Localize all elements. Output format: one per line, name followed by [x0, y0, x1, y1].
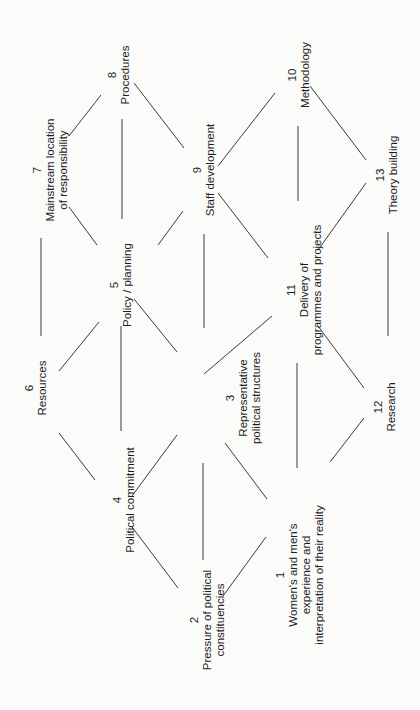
node-label: Delivery of programmes and projects — [298, 225, 324, 355]
edge-9-10 — [218, 93, 275, 166]
node-label: Pressure of political constituencies — [201, 570, 227, 670]
edge-7-5 — [69, 207, 97, 245]
node-label-line: Research — [385, 382, 398, 431]
edge-5-3 — [134, 299, 177, 352]
node-label-line: experience and — [300, 505, 313, 644]
node-label: Research — [385, 382, 398, 431]
edge-3-1 — [225, 443, 267, 499]
edge-3-4 — [132, 435, 177, 496]
edge-11-12 — [318, 326, 364, 388]
edge-13-11 — [318, 183, 366, 250]
edge-6-4 — [59, 433, 95, 480]
node-number: 7 — [31, 119, 44, 222]
edge-9-5 — [158, 211, 183, 245]
node-label-line: Political commitment — [124, 447, 137, 552]
node-number: 3 — [224, 352, 237, 444]
node-label-line: Theory building — [387, 136, 400, 215]
node-label-line: programmes and projects — [311, 225, 324, 355]
node-label-line: Methodology — [299, 42, 312, 108]
node-label-line: Pressure of political — [201, 570, 214, 670]
edge-7-8 — [69, 95, 101, 136]
node-label: Policy / planning — [121, 243, 134, 327]
node-number: 11 — [285, 225, 298, 355]
node-label-line: Representative — [237, 352, 250, 444]
edge-2-1 — [223, 537, 266, 596]
node-label-line: Policy / planning — [121, 243, 134, 327]
node-number: 9 — [191, 124, 204, 217]
edge-10-13 — [310, 86, 366, 160]
edge-4-2 — [132, 527, 178, 588]
node-label: Staff development — [204, 124, 217, 217]
node-number: 8 — [106, 46, 119, 105]
node-label-line: interpretation of their reality — [313, 505, 326, 644]
node-number: 10 — [286, 42, 299, 108]
node-label-line: Delivery of — [298, 225, 311, 355]
edge-6-5 — [59, 322, 99, 371]
node-number: 5 — [108, 243, 121, 327]
edge-9-11 — [218, 193, 268, 258]
node-label: Methodology — [299, 42, 312, 108]
node-label-line: Resources — [36, 361, 49, 416]
node-label: Representative political structures — [237, 352, 263, 444]
node-label-line: political structures — [250, 352, 263, 444]
node-label: Theory building — [387, 136, 400, 215]
node-number: 2 — [188, 570, 201, 670]
edge-8-9 — [134, 83, 184, 148]
node-number: 4 — [111, 447, 124, 552]
node-label: Political commitment — [124, 447, 137, 552]
node-label: Mainstream location of responsibility — [44, 119, 70, 222]
node-number: 13 — [374, 136, 387, 215]
node-number: 12 — [372, 382, 385, 431]
institutionalisation-web-diagram: 1 Women's and men's experience and inter… — [0, 0, 420, 710]
node-label-line: Procedures — [119, 46, 132, 105]
node-label: Women's and men's experience and interpr… — [287, 505, 326, 644]
node-label: Resources — [36, 361, 49, 416]
node-label-line: Mainstream location — [44, 119, 57, 222]
node-label-line: of responsibility — [57, 119, 70, 222]
node-label-line: constituencies — [214, 570, 227, 670]
node-label-line: Women's and men's — [287, 505, 300, 644]
node-label-line: Staff development — [204, 124, 217, 217]
edge-12-1 — [330, 418, 364, 462]
node-number: 1 — [274, 505, 287, 644]
node-number: 6 — [23, 361, 36, 416]
node-label: Procedures — [119, 46, 132, 105]
